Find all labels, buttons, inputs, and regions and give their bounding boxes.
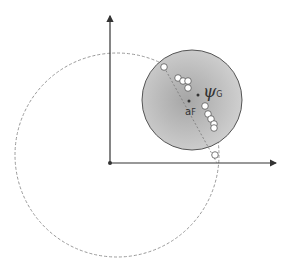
- sample-point: [202, 103, 209, 110]
- sample-point: [185, 78, 192, 85]
- af-dot: [188, 100, 191, 103]
- sample-point: [185, 85, 192, 92]
- af-label: aF: [185, 106, 196, 117]
- diagram-canvas: [0, 0, 289, 272]
- psi-label: ψG: [203, 81, 223, 101]
- sample-point: [212, 152, 219, 159]
- gray-circle: [142, 50, 242, 150]
- af-subscript: F: [191, 108, 196, 117]
- sample-point: [211, 125, 218, 132]
- psi-subscript: G: [216, 90, 222, 99]
- psi-symbol: ψ: [203, 81, 216, 101]
- psi-center-dot: [197, 94, 200, 97]
- origin-dot: [108, 161, 112, 165]
- sample-point: [161, 64, 168, 71]
